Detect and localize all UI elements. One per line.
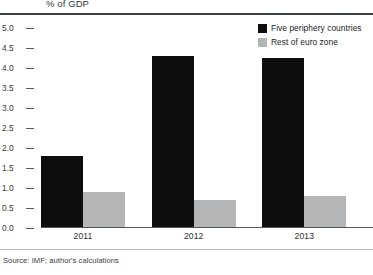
legend-item-label: Rest of euro zone bbox=[271, 36, 338, 48]
y-axis-tick: 4.5 bbox=[0, 42, 41, 54]
y-axis-tick: 1.0 bbox=[0, 182, 41, 194]
legend-item: Rest of euro zone bbox=[258, 36, 373, 48]
y-axis-tick-label: 2.0 bbox=[2, 142, 14, 154]
bottom-divider bbox=[0, 249, 373, 250]
y-axis-tick-mark bbox=[26, 68, 34, 69]
bar bbox=[83, 192, 125, 228]
y-axis-tick-mark bbox=[26, 188, 34, 189]
y-axis-tick-label: 4.0 bbox=[2, 62, 14, 74]
y-axis-tick-mark bbox=[26, 28, 34, 29]
legend-swatch-icon bbox=[258, 38, 267, 47]
chart-title: % of GDP bbox=[46, 0, 89, 9]
y-axis-tick: 3.5 bbox=[0, 82, 41, 94]
bar bbox=[304, 196, 346, 228]
bar bbox=[262, 58, 304, 228]
bar-group bbox=[41, 28, 152, 228]
y-axis-tick-mark bbox=[26, 88, 34, 89]
legend-item-label: Five periphery countries bbox=[271, 22, 362, 34]
y-axis-tick: 1.5 bbox=[0, 162, 41, 174]
bar-group bbox=[152, 28, 263, 228]
y-axis-tick-label: 1.5 bbox=[2, 162, 14, 174]
axis-baseline bbox=[41, 227, 373, 228]
bar bbox=[41, 156, 83, 228]
y-axis-tick: 5.0 bbox=[0, 22, 41, 34]
x-axis-tick-label: 2013 bbox=[262, 231, 346, 241]
y-axis-tick: 2.0 bbox=[0, 142, 41, 154]
y-axis-tick-mark bbox=[26, 128, 34, 129]
y-axis-tick: 2.5 bbox=[0, 122, 41, 134]
y-axis-tick: 3.0 bbox=[0, 102, 41, 114]
y-axis-tick: 0.5 bbox=[0, 202, 41, 214]
y-axis-tick-mark bbox=[26, 148, 34, 149]
chart-legend: Five periphery countriesRest of euro zon… bbox=[258, 22, 373, 50]
y-axis-tick-label: 0.5 bbox=[2, 202, 14, 214]
top-divider bbox=[0, 13, 373, 15]
y-axis-tick-label: 3.0 bbox=[2, 102, 14, 114]
y-axis-tick-label: 4.5 bbox=[2, 42, 14, 54]
y-axis-tick-label: 5.0 bbox=[2, 22, 14, 34]
legend-item: Five periphery countries bbox=[258, 22, 373, 34]
y-axis-tick-label: 2.5 bbox=[2, 122, 14, 134]
y-axis-tick: 0.0 bbox=[0, 222, 41, 234]
y-axis-tick-label: 3.5 bbox=[2, 82, 14, 94]
chart-figure: % of GDP 5.04.54.03.53.02.52.01.51.00.50… bbox=[0, 0, 373, 275]
plot-area: 5.04.54.03.53.02.52.01.51.00.50.0 201120… bbox=[41, 28, 373, 228]
x-axis-tick-label: 2011 bbox=[41, 231, 125, 241]
y-axis-tick-mark bbox=[26, 228, 34, 229]
y-axis-tick-mark bbox=[26, 108, 34, 109]
y-axis-tick: 4.0 bbox=[0, 62, 41, 74]
legend-swatch-icon bbox=[258, 24, 267, 33]
y-axis-tick-mark bbox=[26, 168, 34, 169]
y-axis-tick-label: 0.0 bbox=[2, 222, 14, 234]
bar bbox=[152, 56, 194, 228]
bar-group bbox=[262, 28, 373, 228]
x-axis-tick-label: 2012 bbox=[152, 231, 236, 241]
source-note: Source: IMF; author's calculations bbox=[3, 256, 119, 265]
y-axis-tick-mark bbox=[26, 48, 34, 49]
y-axis-tick-label: 1.0 bbox=[2, 182, 14, 194]
bar bbox=[194, 200, 236, 228]
y-axis-tick-mark bbox=[26, 208, 34, 209]
